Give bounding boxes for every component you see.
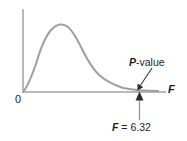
pvalue-suffix: -value <box>136 56 165 68</box>
chart-canvas <box>0 0 187 141</box>
pvalue-annotation-label: P-value <box>129 57 165 68</box>
fstat-value: = 6.32 <box>118 121 150 133</box>
pvalue-leader-line <box>140 68 152 86</box>
fstat-annotation-label: F = 6.32 <box>112 122 151 133</box>
pvalue-symbol: P <box>129 56 136 68</box>
axis-origin-label: 0 <box>15 94 21 105</box>
x-axis-label: F <box>168 84 175 95</box>
f-distribution-figure: 0 F P-value F = 6.32 <box>0 0 187 141</box>
